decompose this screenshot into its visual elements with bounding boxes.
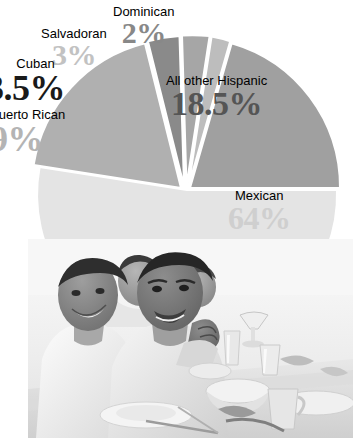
pie-label-puerto-rican-percent: 9% [0,122,65,156]
photo-people-at-table [28,239,353,438]
photo-illustration [28,239,353,438]
pie-label-mexican-percent: 64% [228,203,291,233]
pie-label-all-other-hispanic-percent: 18.5% [166,88,267,120]
pie-label-dominican-percent: 2% [113,19,174,48]
pie-label-puerto-rican: Puerto Rican 9% [0,108,65,156]
pie-label-mexican: Mexican 64% [228,189,291,233]
pie-label-cuban: Cuban 3.5% [0,57,65,105]
pie-label-cuban-percent: 3.5% [0,71,65,105]
hispanic-origin-infographic: Dominican 2% Salvadoran 3% Cuban 3.5% Pu… [0,0,353,438]
pie-label-dominican: Dominican 2% [113,5,174,47]
pie-label-all-other-hispanic: All other Hispanic 18.5% [166,74,267,120]
